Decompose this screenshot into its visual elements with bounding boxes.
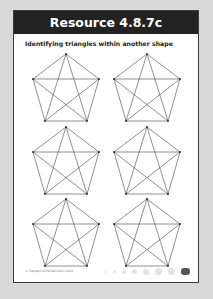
decor-dot — [155, 268, 162, 275]
footer-decoration — [105, 268, 190, 275]
pentagon-r2-c2 — [113, 126, 181, 195]
pentagon-r2-c1 — [32, 126, 100, 195]
pentagon-r3-c2 — [113, 198, 181, 267]
worksheet-page: Resource 4.8.7c Identifying triangles wi… — [13, 10, 199, 283]
decor-dot — [143, 269, 149, 275]
decor-dot — [105, 271, 107, 273]
decor-dot — [168, 268, 175, 275]
pentagon-grid — [14, 11, 200, 284]
pentagon-r1-c2 — [113, 53, 181, 122]
pentagon-r1-c1 — [32, 53, 100, 122]
decor-dot — [132, 269, 137, 274]
page-number-badge — [181, 268, 190, 275]
decor-dot — [113, 270, 116, 273]
copyright-text: © HarperCollinsPublishers 2018 — [25, 269, 73, 273]
decor-dot — [122, 270, 126, 274]
pentagon-r3-c1 — [32, 198, 100, 267]
